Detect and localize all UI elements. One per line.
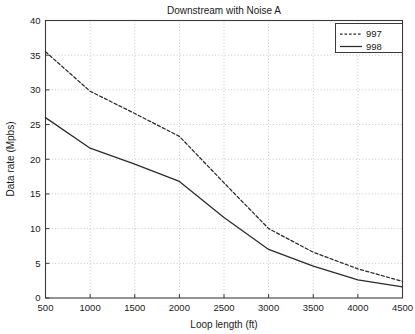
x-tick-label: 2500 (213, 302, 234, 313)
legend-label-998: 998 (366, 41, 382, 52)
downstream-noise-a-line-chart: Downstream with Noise A 5001000150020002… (0, 0, 415, 334)
y-tick-label: 0 (35, 292, 40, 303)
y-tick-label: 35 (30, 50, 41, 61)
y-tick-label: 15 (30, 188, 41, 199)
y-axis-title: Data rate (Mpbs) (5, 121, 16, 196)
x-tick-label: 4500 (392, 302, 413, 313)
y-tick-label: 30 (30, 84, 41, 95)
y-tick-label: 10 (30, 223, 41, 234)
y-tick-label: 5 (35, 258, 40, 269)
x-tick-label: 500 (38, 302, 54, 313)
x-tick-label: 1500 (124, 302, 145, 313)
x-tick-labels: 50010001500200025003000350040004500 (38, 302, 414, 313)
chart-title: Downstream with Noise A (167, 5, 281, 16)
x-tick-label: 4000 (347, 302, 368, 313)
y-tick-label: 20 (30, 154, 41, 165)
x-tick-label: 3000 (258, 302, 279, 313)
x-axis-title: Loop length (ft) (190, 319, 257, 330)
x-tick-label: 1000 (80, 302, 101, 313)
legend[interactable]: 997998 (336, 24, 403, 53)
y-tick-label: 40 (30, 15, 41, 26)
x-tick-label: 3500 (303, 302, 324, 313)
legend-label-997: 997 (366, 28, 382, 39)
x-tick-label: 2000 (169, 302, 190, 313)
chart-figure: Downstream with Noise A 5001000150020002… (0, 0, 415, 334)
y-tick-label: 25 (30, 119, 41, 130)
